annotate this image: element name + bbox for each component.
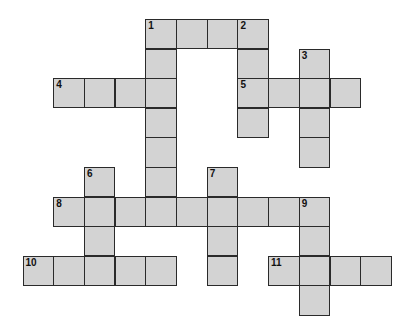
crossword-cell[interactable] [299, 108, 331, 138]
crossword-cell[interactable]: 1 [145, 19, 177, 49]
crossword-cell[interactable] [237, 49, 269, 79]
crossword-cell[interactable] [145, 167, 177, 197]
crossword-cell[interactable]: 6 [84, 167, 116, 197]
crossword-cell[interactable] [145, 137, 177, 167]
clue-number: 9 [302, 198, 308, 209]
crossword-cell[interactable] [145, 108, 177, 138]
crossword-grid: 1253467891011 [0, 0, 411, 336]
crossword-cell[interactable] [84, 256, 116, 286]
crossword-cell[interactable]: 9 [299, 197, 331, 227]
crossword-cell[interactable]: 8 [53, 197, 85, 227]
clue-number: 1 [148, 20, 154, 31]
clue-number: 7 [210, 168, 216, 179]
crossword-cell[interactable] [299, 137, 331, 167]
crossword-cell[interactable] [299, 256, 331, 286]
crossword-cell[interactable] [145, 256, 177, 286]
clue-number: 5 [240, 79, 246, 90]
crossword-cell[interactable] [268, 197, 300, 227]
crossword-cell[interactable] [84, 197, 116, 227]
crossword-cell[interactable] [176, 19, 208, 49]
crossword-cell[interactable] [145, 78, 177, 108]
crossword-cell[interactable]: 3 [299, 49, 331, 79]
clue-number: 8 [56, 198, 62, 209]
crossword-cell[interactable] [299, 226, 331, 256]
clue-number: 6 [87, 168, 93, 179]
clue-number: 11 [271, 257, 282, 268]
crossword-cell[interactable]: 4 [53, 78, 85, 108]
crossword-cell[interactable]: 5 [237, 78, 269, 108]
crossword-cell[interactable] [145, 49, 177, 79]
crossword-cell[interactable] [299, 78, 331, 108]
clue-number: 3 [302, 50, 308, 61]
crossword-cell[interactable] [207, 226, 239, 256]
crossword-cell[interactable] [268, 78, 300, 108]
crossword-cell[interactable] [299, 285, 331, 315]
crossword-cell[interactable] [115, 197, 147, 227]
clue-number: 2 [240, 20, 246, 31]
crossword-cell[interactable]: 11 [268, 256, 300, 286]
crossword-cell[interactable] [176, 197, 208, 227]
crossword-cell[interactable] [237, 197, 269, 227]
crossword-cell[interactable] [53, 256, 85, 286]
crossword-cell[interactable] [115, 78, 147, 108]
clue-number: 4 [56, 79, 62, 90]
crossword-cell[interactable] [207, 197, 239, 227]
crossword-cell[interactable] [145, 197, 177, 227]
crossword-cell[interactable] [330, 78, 362, 108]
crossword-cell[interactable]: 10 [23, 256, 55, 286]
crossword-cell[interactable] [84, 78, 116, 108]
crossword-cell[interactable] [207, 256, 239, 286]
clue-number: 10 [26, 257, 37, 268]
crossword-cell[interactable] [360, 256, 392, 286]
crossword-cell[interactable] [237, 108, 269, 138]
crossword-cell[interactable] [207, 19, 239, 49]
crossword-cell[interactable] [115, 256, 147, 286]
crossword-cell[interactable]: 2 [237, 19, 269, 49]
crossword-cell[interactable]: 7 [207, 167, 239, 197]
crossword-cell[interactable] [330, 256, 362, 286]
crossword-cell[interactable] [84, 226, 116, 256]
